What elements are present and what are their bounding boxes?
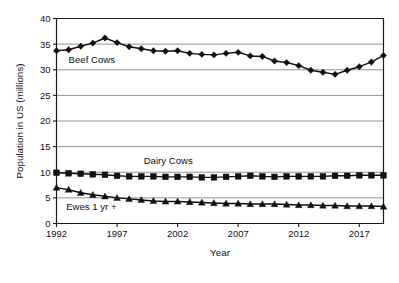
series-label-2: Ewes 1 yr +: [66, 201, 117, 212]
data-point-1-27: [381, 172, 387, 178]
x-tick-label-2012: 2012: [288, 228, 309, 239]
data-point-1-20: [296, 173, 302, 179]
data-point-1-2: [78, 171, 84, 177]
y-tick-label-40: 40: [40, 13, 51, 24]
data-point-1-13: [211, 174, 217, 180]
data-point-1-4: [102, 172, 108, 178]
data-point-1-18: [272, 174, 278, 180]
population-line-chart: 0510152025303540 19921997200220072012201…: [0, 0, 399, 283]
data-point-1-0: [54, 170, 60, 176]
data-point-1-7: [138, 173, 144, 179]
x-axis-title: Year: [210, 247, 231, 258]
data-point-1-11: [187, 174, 193, 180]
y-tick-label-15: 15: [40, 141, 51, 152]
y-tick-label-5: 5: [45, 192, 50, 203]
y-tick-label-25: 25: [40, 90, 51, 101]
series-label-0: Beef Cows: [69, 54, 116, 65]
x-tick-label-1997: 1997: [106, 228, 127, 239]
data-point-1-1: [66, 170, 72, 176]
data-point-1-21: [308, 173, 314, 179]
data-point-1-22: [320, 173, 326, 179]
data-point-1-26: [368, 172, 374, 178]
data-point-1-10: [175, 174, 181, 180]
data-point-1-25: [356, 172, 362, 178]
data-point-1-3: [90, 171, 96, 177]
y-tick-label-35: 35: [40, 39, 51, 50]
data-point-1-12: [199, 174, 205, 180]
data-point-1-5: [114, 173, 120, 179]
data-point-1-14: [223, 174, 229, 180]
data-point-1-16: [247, 173, 253, 179]
data-point-1-24: [344, 173, 350, 179]
figure-background: [0, 0, 399, 283]
chart-figure: 0510152025303540 19921997200220072012201…: [0, 0, 399, 283]
series-label-1: Dairy Cows: [144, 155, 193, 166]
x-tick-label-2002: 2002: [167, 228, 188, 239]
x-tick-label-1992: 1992: [46, 228, 67, 239]
y-tick-label-20: 20: [40, 115, 51, 126]
data-point-1-6: [126, 173, 132, 179]
x-tick-label-2007: 2007: [228, 228, 249, 239]
y-axis-title: Population in US (millions): [14, 64, 25, 179]
data-point-1-15: [235, 173, 241, 179]
data-point-1-9: [163, 174, 169, 180]
data-point-1-19: [284, 173, 290, 179]
data-point-1-17: [259, 173, 265, 179]
x-tick-label-2017: 2017: [349, 228, 370, 239]
data-point-1-8: [150, 173, 156, 179]
y-tick-label-10: 10: [40, 167, 51, 178]
y-tick-label-30: 30: [40, 64, 51, 75]
data-point-1-23: [332, 173, 338, 179]
